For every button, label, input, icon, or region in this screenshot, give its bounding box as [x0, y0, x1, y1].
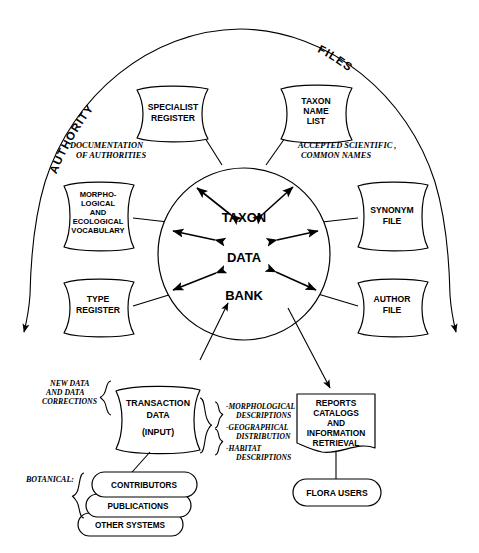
annotation-line: OF AUTHORITIES	[76, 151, 146, 160]
file-box-taxon-name-list[interactable]: TAXON NAME LIST	[281, 85, 352, 143]
output-label: REPORTS	[316, 398, 357, 408]
annotation-line: -MORPHOLOGICAL	[226, 402, 296, 411]
annotation-line: -HABITAT	[226, 444, 261, 453]
file-box-label: REGISTER	[151, 113, 196, 123]
file-box-label: LOGICAL	[81, 199, 116, 208]
annotation-line: DOCUMENTATION	[69, 141, 144, 150]
file-box-label: TAXON	[301, 96, 330, 106]
source-label: CONTRIBUTORS	[111, 481, 177, 490]
file-box-type-register[interactable]: TYPE REGISTER	[64, 279, 134, 337]
annotation-line: DESCRIPTIONS	[235, 453, 291, 462]
center-label-data: DATA	[227, 250, 262, 265]
transaction-data-label: TRANSACTION	[126, 398, 190, 408]
transaction-data-box[interactable]: TRANSACTION DATA (INPUT)	[116, 386, 200, 453]
annotation-transaction-detail: -MORPHOLOGICAL DESCRIPTIONS -GEOGRAPHICA…	[200, 398, 296, 462]
annotation-documentation-of-authorities: DOCUMENTATION OF AUTHORITIES	[69, 141, 146, 160]
annotation-botanical: BOTANICAL:	[25, 473, 84, 518]
annotation-line: CORRECTIONS	[42, 397, 98, 406]
flora-users-node[interactable]: FLORA USERS	[293, 479, 381, 506]
file-box-label: MORPHO-	[80, 190, 117, 199]
file-box-label: SYNONYM	[370, 205, 413, 215]
output-arrow	[288, 308, 330, 388]
annotation-line: ACCEPTED SCIENTIFIC ,	[297, 141, 396, 150]
annotation-new-data: NEW DATA AND DATA CORRECTIONS	[42, 379, 111, 415]
file-box-label: NAME	[303, 106, 329, 116]
annotation-line: DISTRIBUTION	[235, 432, 291, 441]
file-box-label: LIST	[307, 116, 326, 126]
arc-label-authority: AUTHORITY	[47, 102, 96, 175]
transaction-data-label: DATA	[146, 410, 170, 420]
annotation-line: NEW DATA	[49, 379, 90, 388]
file-box-label: FILE	[383, 305, 402, 315]
annotation-line: BOTANICAL:	[25, 475, 74, 484]
transaction-data-label: (INPUT)	[142, 427, 174, 437]
flora-users-label: FLORA USERS	[306, 488, 368, 498]
annotation-line: COMMON NAMES	[301, 151, 371, 160]
source-label: PUBLICATIONS	[108, 502, 169, 511]
file-box-label: AUTHOR	[374, 294, 412, 304]
center-label-bank: BANK	[225, 288, 263, 303]
source-contributors[interactable]: CONTRIBUTORS	[92, 472, 197, 497]
annotation-line: AND DATA	[45, 388, 84, 397]
file-box-synonym-file[interactable]: SYNONYM FILE	[358, 182, 428, 251]
center-label-taxon: TAXON	[222, 210, 267, 225]
output-label: AND	[327, 418, 345, 428]
output-label: INFORMATION	[307, 428, 365, 438]
file-box-label: FILE	[383, 216, 402, 226]
file-box-specialist-register[interactable]: SPECIALIST REGISTER	[137, 86, 208, 142]
output-label: RETRIEVAL	[313, 438, 360, 448]
file-box-morphological-ecological-vocabulary[interactable]: MORPHO- LOGICAL AND ECOLOGICAL VOCABULAR…	[64, 182, 134, 251]
annotation-accepted-names: ACCEPTED SCIENTIFIC , COMMON NAMES	[297, 141, 396, 160]
source-label: OTHER SYSTEMS	[95, 521, 166, 530]
file-box-label: SPECIALIST	[148, 102, 199, 112]
file-box-label: AND	[90, 208, 107, 217]
file-box-label: ECOLOGICAL	[73, 217, 124, 226]
file-box-author-file[interactable]: AUTHOR FILE	[358, 279, 428, 337]
annotation-line: DESCRIPTIONS	[235, 411, 291, 420]
file-box-label: REGISTER	[76, 305, 121, 315]
diagram-canvas: AUTHORITY FILES TAXON DATA BANK SPECIAL	[0, 0, 479, 553]
file-box-label: TYPE	[87, 294, 110, 304]
taxon-data-bank-diagram: AUTHORITY FILES TAXON DATA BANK SPECIAL	[0, 0, 479, 553]
annotation-line: -GEOGRAPHICAL	[226, 423, 289, 432]
output-reports-catalogs-box[interactable]: REPORTS CATALOGS AND INFORMATION RETRIEV…	[297, 394, 375, 452]
file-box-label: VOCABULARY	[71, 226, 124, 235]
output-label: CATALOGS	[313, 408, 359, 418]
arc-label-files: FILES	[316, 43, 355, 74]
